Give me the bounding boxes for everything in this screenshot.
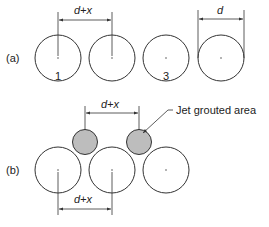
diameter-label: d — [217, 4, 224, 16]
spacing-label-b-top: d+x — [101, 98, 120, 110]
panel-b: (b) d+x d+x — [6, 98, 257, 215]
pile-1-label: 1 — [55, 70, 61, 82]
grout-column-2 — [127, 130, 152, 155]
pile-b-3 — [143, 147, 189, 193]
panel-a-label: (a) — [6, 52, 19, 64]
spacing-label-b-bottom: d+x — [74, 193, 93, 205]
grout-column-1 — [73, 130, 98, 155]
jet-grout-callout: Jet grouted area — [143, 104, 257, 133]
spacing-label-a: d+x — [74, 4, 93, 16]
pile-arrangement-diagram: (a) 1 3 d+x — [0, 0, 269, 227]
panel-a: (a) 1 3 d+x — [6, 4, 244, 82]
pile-3: 3 — [143, 35, 189, 82]
pile-3-label: 3 — [163, 70, 169, 82]
pile-4 — [198, 35, 244, 81]
panel-b-label: (b) — [6, 164, 19, 176]
spacing-dimension-b-top: d+x — [85, 98, 139, 130]
jet-grout-label: Jet grouted area — [176, 104, 257, 116]
